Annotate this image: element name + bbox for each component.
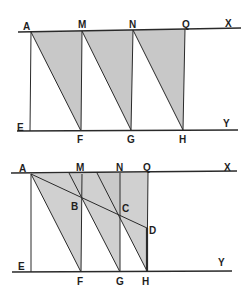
point-label-g: G: [116, 276, 124, 287]
point-label-a: A: [23, 21, 30, 32]
point-label-m: M: [78, 19, 86, 30]
point-label-f: F: [77, 134, 83, 145]
point-label-e: E: [17, 122, 24, 133]
point-label-h: H: [179, 134, 186, 145]
point-label-b: B: [71, 201, 78, 212]
point-label-e: E: [18, 261, 25, 272]
point-label-n: N: [116, 162, 123, 173]
point-label-y: Y: [223, 118, 230, 129]
point-label-q: Q: [182, 19, 190, 30]
point-label-n: N: [129, 19, 136, 30]
shaded-triangle-mng: [82, 30, 133, 130]
point-label-q: Q: [143, 162, 151, 173]
geometry-diagram: AMNQXEFGHY AMNQXBCDEFGHY: [0, 0, 248, 291]
top-parallel-line: [11, 171, 237, 173]
point-label-f: F: [77, 276, 83, 287]
point-label-a: A: [19, 163, 26, 174]
shaded-triangle-nqh: [133, 29, 185, 130]
segment-ae: [30, 32, 31, 131]
point-label-g: G: [127, 134, 135, 145]
point-label-x: X: [224, 162, 231, 173]
figure-1-parallel-lines-triangles: AMNQXEFGHY: [17, 18, 241, 145]
figure-2-transversal-triangles: AMNQXBCDEFGHY: [11, 162, 237, 287]
shaded-triangle-amf: [31, 31, 82, 131]
point-label-d: D: [149, 225, 156, 236]
point-label-x: X: [225, 18, 232, 29]
point-label-y: Y: [218, 257, 225, 268]
bottom-parallel-line: [17, 130, 238, 131]
point-label-h: H: [142, 276, 149, 287]
point-label-c: C: [122, 203, 129, 214]
bottom-parallel-line: [12, 271, 232, 272]
point-label-m: M: [76, 162, 84, 173]
